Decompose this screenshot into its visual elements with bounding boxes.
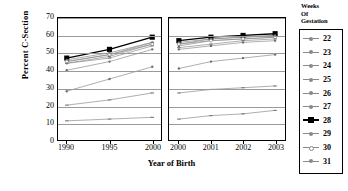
data-point-25-2 (151, 48, 153, 50)
legend-title-line-0: Weeks (301, 2, 343, 10)
data-point-25-3 (274, 39, 276, 41)
x-tick-b-2002: 2002 (226, 143, 260, 152)
legend-marker-30-icon (303, 143, 319, 152)
plot-area (57, 17, 286, 141)
gridline-70 (169, 18, 285, 19)
legend: 22232425262728293031 (299, 29, 343, 174)
x-axis-title: Year of Birth (57, 158, 286, 168)
gridline-70 (58, 18, 161, 19)
legend-label-23: 23 (319, 48, 331, 57)
legend-label-25: 25 (319, 75, 331, 84)
y-axis-tick-labels: 010203040506070 (28, 17, 54, 141)
legend-label-26: 26 (319, 89, 331, 98)
data-point-22-3 (273, 110, 277, 111)
data-point-31-0 (65, 63, 69, 64)
data-point-23-0 (177, 92, 181, 93)
legend-item-25[interactable]: 25 (300, 73, 342, 87)
gridline-60 (169, 36, 285, 37)
series-line-24 (179, 55, 275, 69)
gridline-40 (58, 71, 161, 72)
data-point-30-2 (242, 37, 245, 40)
x-tick-b-2000: 2000 (161, 143, 195, 152)
data-point-25-1 (108, 60, 110, 62)
data-point-24-0 (178, 67, 180, 69)
legend-marker-25-icon (303, 75, 319, 84)
plot-panel-a (57, 17, 162, 141)
x-tick-b-2003: 2003 (259, 143, 293, 152)
plot-panel-b (168, 17, 286, 141)
y-tick-60: 60 (32, 31, 54, 39)
data-point-24-2 (151, 66, 153, 68)
data-point-23-3 (273, 85, 277, 86)
series-line-23 (67, 93, 152, 105)
data-point-31-1 (108, 58, 112, 59)
data-point-22-0 (177, 119, 181, 120)
y-tick-40: 40 (32, 66, 54, 74)
gridline-30 (58, 89, 161, 90)
y-tick-30: 30 (32, 84, 54, 92)
legend-label-27: 27 (319, 102, 331, 111)
data-point-24-1 (210, 60, 212, 62)
legend-marker-24-icon (303, 61, 319, 70)
data-point-30-1 (209, 39, 212, 42)
gridline-40 (169, 71, 285, 72)
legend-title-line-2: Gestation (301, 17, 343, 25)
data-point-30-2 (151, 43, 154, 46)
series-line-22 (179, 110, 275, 119)
data-point-24-2 (242, 57, 244, 59)
legend-item-27[interactable]: 27 (300, 100, 342, 114)
legend-marker-23-icon (303, 48, 319, 57)
legend-marker-28-icon (303, 116, 319, 125)
gridline-10 (58, 124, 161, 125)
gridline-20 (169, 107, 285, 108)
gridline-50 (169, 53, 285, 54)
data-point-23-0 (65, 105, 69, 106)
data-point-22-1 (209, 115, 213, 116)
gridline-60 (58, 36, 161, 37)
data-point-30-0 (65, 60, 68, 63)
gridline-30 (169, 89, 285, 90)
x-axis-tick-labels: 1990199520002000200120022003 (57, 143, 286, 155)
data-point-31-0 (177, 47, 181, 48)
legend-label-24: 24 (319, 61, 331, 70)
legend-marker-26-icon (303, 89, 319, 98)
gridline-50 (58, 53, 161, 54)
gridline-10 (169, 124, 285, 125)
data-point-28-1 (107, 47, 112, 52)
legend-item-28[interactable]: 28 (300, 114, 342, 128)
data-point-22-2 (241, 113, 245, 114)
legend-item-24[interactable]: 24 (300, 59, 342, 73)
data-point-22-0 (65, 120, 69, 121)
data-point-25-2 (242, 41, 244, 43)
legend-title: WeeksOfGestation (301, 2, 343, 25)
data-point-23-1 (108, 99, 112, 100)
legend-item-23[interactable]: 23 (300, 46, 342, 60)
legend-marker-29-icon (303, 129, 319, 138)
legend-label-29: 29 (319, 129, 331, 138)
data-point-31-1 (209, 44, 213, 45)
legend-label-31: 31 (319, 157, 331, 166)
y-tick-50: 50 (32, 48, 54, 56)
data-point-25-1 (210, 45, 212, 47)
legend-item-30[interactable]: 30 (300, 141, 342, 155)
legend-item-26[interactable]: 26 (300, 86, 342, 100)
y-tick-20: 20 (32, 102, 54, 110)
data-point-23-2 (150, 92, 154, 93)
data-point-22-1 (108, 119, 112, 120)
legend-label-22: 22 (319, 34, 331, 43)
data-point-31-3 (273, 38, 277, 39)
legend-item-31[interactable]: 31 (300, 154, 342, 168)
legend-item-22[interactable]: 22 (300, 32, 342, 46)
y-tick-70: 70 (32, 13, 54, 21)
data-point-31-2 (241, 40, 245, 41)
legend-label-30: 30 (319, 143, 331, 152)
data-point-22-2 (150, 117, 154, 118)
data-point-30-0 (177, 43, 180, 46)
data-point-31-2 (150, 45, 154, 46)
legend-marker-27-icon (303, 102, 319, 111)
legend-title-line-1: Of (301, 10, 343, 18)
legend-item-29[interactable]: 29 (300, 127, 342, 141)
legend-marker-31-icon (303, 157, 319, 166)
legend-marker-22-icon (303, 34, 319, 43)
x-tick-a-1990: 1990 (49, 143, 83, 152)
